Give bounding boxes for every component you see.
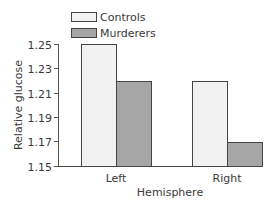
bar-chart: Controls Murderers 1.25 1.23 1.21 1.19 1…	[0, 0, 278, 208]
legend-label-murderers: Murderers	[100, 27, 156, 40]
legend-swatch-controls	[72, 13, 97, 22]
bar-controls-left	[82, 45, 117, 167]
legend-label-controls: Controls	[100, 11, 146, 24]
y-tick-label: 1.23	[28, 63, 53, 76]
y-tick-label: 1.17	[28, 136, 53, 149]
y-tick-label: 1.15	[28, 161, 53, 174]
y-tick-label: 1.25	[28, 39, 53, 52]
x-tick-label-left: Left	[106, 172, 127, 185]
y-axis: 1.25 1.23 1.21 1.19 1.17 1.15 Relative g…	[12, 39, 59, 174]
y-tick-label: 1.19	[28, 112, 53, 125]
legend: Controls Murderers	[72, 11, 157, 40]
x-tick-label-right: Right	[213, 172, 243, 185]
bar-murderers-right	[228, 143, 263, 167]
bar-controls-right	[193, 82, 228, 167]
bars	[82, 45, 263, 167]
y-tick-label: 1.21	[28, 88, 53, 101]
x-axis-title: Hemisphere	[137, 186, 204, 199]
legend-swatch-murderers	[72, 29, 97, 38]
bar-murderers-left	[117, 82, 152, 167]
y-axis-title: Relative glucose	[12, 60, 25, 150]
